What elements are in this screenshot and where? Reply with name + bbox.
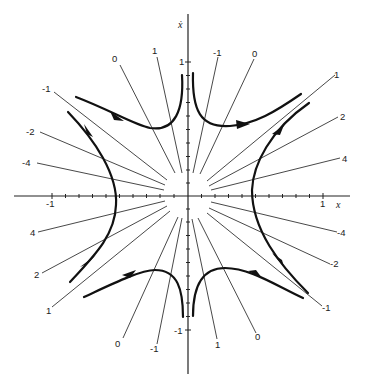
- x-tick-label-1: 1: [320, 198, 325, 209]
- isocline-label: 2: [34, 269, 39, 280]
- isocline-label: 0: [252, 48, 257, 59]
- trajectory-right: [252, 103, 309, 293]
- isocline-label: -1: [42, 83, 50, 94]
- x-tick-label-neg1: -1: [46, 198, 54, 209]
- arrow-icon: [272, 253, 284, 267]
- isocline-label: 0: [112, 53, 117, 64]
- trajectory-top-right: [193, 73, 301, 129]
- isocline-label: -4: [337, 227, 345, 238]
- isocline-label: 1: [334, 69, 339, 80]
- trajectory-bottom-right: [193, 268, 303, 316]
- isocline-label: 2: [340, 111, 345, 122]
- isocline-label: -2: [330, 258, 338, 269]
- isocline-label: -1: [213, 47, 221, 58]
- isoclines-top-right: [193, 57, 340, 190]
- isocline-phase-diagram: -1 1 x 1 -1 ẋ 0 1 -1 -2 -4 -1 0 1 2 4 4 …: [0, 0, 378, 382]
- y-tick-label-1: 1: [179, 56, 184, 67]
- isocline-label: 1: [215, 339, 220, 350]
- isocline-label: -2: [26, 126, 34, 137]
- isocline-label: -1: [322, 302, 330, 313]
- isocline-label: -1: [150, 343, 158, 354]
- isocline-label: -4: [22, 157, 30, 168]
- y-tick-label-neg1: -1: [174, 325, 182, 336]
- isocline-label: 1: [46, 305, 51, 316]
- isocline-label: 4: [30, 227, 35, 238]
- trajectory-bottom-left: [84, 270, 183, 317]
- isocline-label: 0: [115, 338, 120, 349]
- isocline-label: 1: [152, 45, 157, 56]
- arrow-icon: [236, 120, 250, 129]
- y-axis-label: ẋ: [177, 19, 183, 30]
- isoclines-bottom-left: [38, 201, 182, 344]
- isocline-label: 4: [342, 153, 347, 164]
- x-axis-label: x: [335, 199, 341, 210]
- arrow-icon: [272, 125, 284, 135]
- phase-plane-svg: -1 1 x 1 -1 ẋ 0 1 -1 -2 -4 -1 0 1 2 4 4 …: [0, 0, 378, 382]
- isocline-label: 0: [255, 331, 260, 342]
